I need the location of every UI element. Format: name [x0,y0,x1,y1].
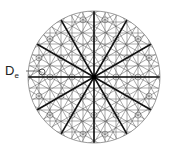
spoke [94,20,127,77]
center-point [92,75,97,80]
lattice-diagram [0,0,171,154]
spoke [94,77,151,110]
radial-spokes [28,11,160,143]
grid-line [0,0,171,148]
grid-line [0,6,171,154]
spoke [37,77,94,110]
spoke [61,20,94,77]
grid-line [0,0,171,148]
spoke [94,77,127,134]
spoke [37,44,94,77]
spoke [94,44,151,77]
spoke [61,77,94,134]
grid-line [0,6,171,154]
label-marker-circle [39,69,45,75]
de-label: De [5,64,19,80]
